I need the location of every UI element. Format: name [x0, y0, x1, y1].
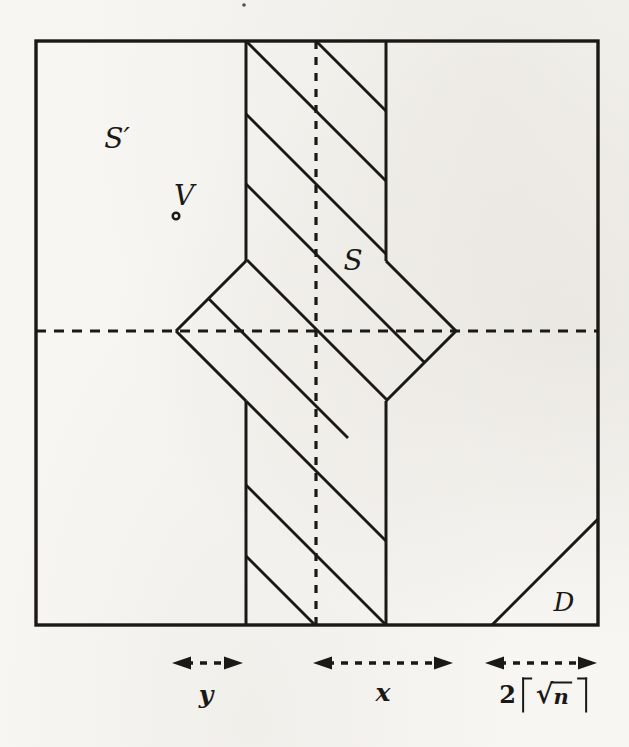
label-dimension-x: x — [376, 680, 391, 705]
dim-arrow-sqrt-left-head — [485, 657, 504, 670]
diamond-upper-left-edge — [176, 261, 246, 331]
diagram-canvas — [0, 0, 629, 747]
diamond-lower-right-edge — [386, 331, 456, 401]
label-region-s: S — [343, 247, 362, 275]
diamond-upper-right-edge — [386, 261, 456, 331]
right-ceiling-bracket-icon — [577, 678, 587, 713]
left-ceiling-bracket-icon — [522, 678, 532, 713]
hatch-line — [246, 556, 315, 625]
label-region-s-prime: S′ — [104, 125, 130, 153]
dim-arrow-sqrt-right-head — [578, 657, 597, 670]
hatch-line — [246, 401, 386, 541]
label-dimension-y: y — [199, 682, 214, 707]
dim-arrow-x-left-head — [313, 657, 332, 670]
hatch-line — [316, 41, 386, 111]
radicand-n: n — [552, 682, 572, 707]
corner-d-diagonal — [492, 519, 598, 625]
dim-arrow-y-left-head — [172, 657, 191, 670]
dim-arrow-y-right-head — [224, 657, 243, 670]
hatch-line — [208, 298, 348, 438]
label-point-v: V — [174, 182, 194, 210]
label-dimension-2-ceil-sqrt-n: 2 √ n — [499, 678, 587, 713]
scanned-figure-page: S′ V S D y x 2 √ n — [0, 0, 629, 747]
sqrt-coefficient: 2 — [499, 683, 516, 707]
stray-ink-dot — [242, 3, 246, 7]
dim-arrow-x-right-head — [434, 657, 453, 670]
diamond-lower-left-edge — [176, 331, 246, 401]
label-region-d: D — [554, 589, 575, 615]
v-point-marker — [173, 213, 180, 220]
